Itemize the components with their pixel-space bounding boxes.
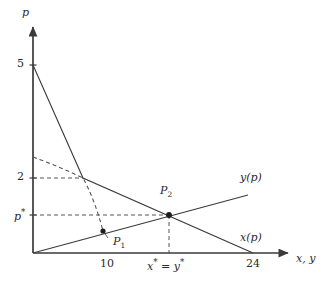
x-axis-label: x, y bbox=[296, 253, 315, 264]
p1-subscript: 1 bbox=[120, 241, 125, 250]
pstar-base: p bbox=[14, 210, 21, 223]
y-tick-label-pstar: p* bbox=[14, 208, 25, 222]
curve-label-yp: y(p) bbox=[240, 172, 262, 183]
curve-label-xp: x(p) bbox=[240, 232, 262, 243]
xp-paren: (p) bbox=[246, 231, 262, 244]
demand-curve-xp bbox=[33, 65, 253, 253]
y-tick-label-2: 2 bbox=[17, 171, 24, 182]
dashed-alternative-demand-curve bbox=[33, 157, 103, 231]
x-tick-label-10: 10 bbox=[100, 258, 114, 269]
point-label-p1: P1 bbox=[113, 236, 125, 250]
y-axis-label: p bbox=[22, 7, 29, 18]
x-tick-label-24: 24 bbox=[246, 258, 260, 269]
plot-canvas bbox=[0, 0, 334, 282]
point-p1-marker bbox=[100, 228, 105, 233]
p2-subscript: 2 bbox=[167, 190, 172, 199]
xstar-equals: = bbox=[158, 260, 174, 273]
x-tick-label-xstar-ystar: x* = y* bbox=[147, 258, 184, 272]
point-label-p2: P2 bbox=[160, 185, 172, 199]
ystar-asterisk: * bbox=[180, 257, 184, 267]
yp-paren: (p) bbox=[246, 171, 262, 184]
y-tick-label-5: 5 bbox=[17, 58, 24, 69]
pstar-asterisk: * bbox=[21, 207, 25, 217]
supply-demand-figure: p x, y 5 2 p* 10 x* = y* 24 y(p) x(p) P1… bbox=[0, 0, 334, 282]
point-p2-marker bbox=[166, 212, 172, 218]
